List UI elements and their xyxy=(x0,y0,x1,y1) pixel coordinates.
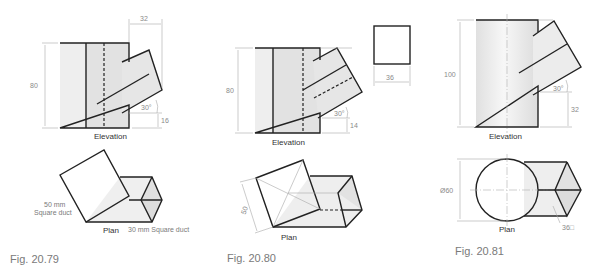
elevation-label: Elevation xyxy=(272,138,305,147)
plan-view: 50 mm Square duct Plan 30 mm Square duct xyxy=(34,150,189,235)
main-duct-note-1: 50 mm xyxy=(44,201,66,208)
dim-angle: 30° xyxy=(334,110,345,117)
elevation-view: 100 30° 32 Elevation xyxy=(444,14,581,141)
elevation-view: 80 32 30° 16 Elevation xyxy=(30,15,169,141)
dim-side: 50 xyxy=(240,205,249,215)
plan-label: Plan xyxy=(499,225,515,234)
figure-caption: Fig. 20.81 xyxy=(455,245,504,257)
elevation-label: Elevation xyxy=(489,132,522,141)
fig-20-81: 100 30° 32 Elevation Ø60 36□ xyxy=(440,14,581,257)
dim-height: 100 xyxy=(444,71,456,78)
plan-view: Ø60 36□ Plan xyxy=(440,154,581,234)
figure-caption: Fig. 20.79 xyxy=(10,253,59,265)
plan-label: Plan xyxy=(281,233,297,242)
figure-caption: Fig. 20.80 xyxy=(227,252,276,264)
dim-height: 80 xyxy=(226,87,234,94)
dim-base: 16 xyxy=(161,117,169,124)
plan-label: Plan xyxy=(103,226,119,235)
elevation-view: 80 30° 14 Elevation xyxy=(226,48,362,147)
dim-diameter: Ø60 xyxy=(440,187,453,194)
plan-view: 50 Plan xyxy=(240,160,362,242)
main-duct-note-2: Square duct xyxy=(34,209,72,217)
dim-branch-section: 36□ xyxy=(562,224,575,231)
dim-base: 14 xyxy=(350,122,358,129)
drawing-canvas: 80 32 30° 16 Elevation 50 mm Square duct… xyxy=(0,0,610,273)
branch-section-view: 36 xyxy=(374,26,410,86)
dim-branch-section: 36 xyxy=(386,74,394,81)
dim-offset: 32 xyxy=(140,15,148,22)
dim-height: 80 xyxy=(30,82,38,89)
dim-angle: 30° xyxy=(553,85,564,92)
elevation-label: Elevation xyxy=(94,132,127,141)
dim-base: 32 xyxy=(571,106,579,113)
branch-duct-note: 30 mm Square duct xyxy=(128,226,189,234)
fig-20-80: 80 30° 14 Elevation 36 xyxy=(226,26,410,264)
fig-20-79: 80 32 30° 16 Elevation 50 mm Square duct… xyxy=(10,15,189,265)
dim-angle: 30° xyxy=(141,104,152,111)
